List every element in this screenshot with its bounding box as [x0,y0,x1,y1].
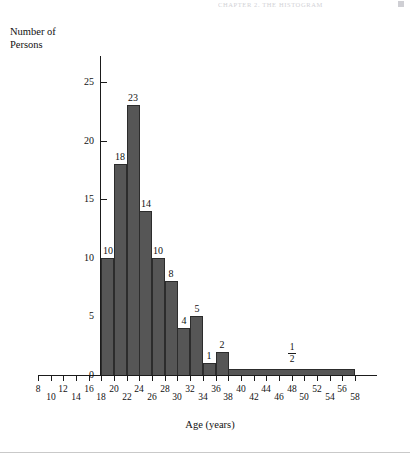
bar-value-label: 2 [207,340,237,350]
x-tick-mark [279,375,280,381]
x-tick-mark [38,375,39,381]
x-tick-mark [76,375,77,381]
histogram-bar [139,211,152,375]
x-tick-mark [190,375,191,381]
histogram-bar [177,328,190,375]
x-tick-mark [216,375,217,381]
x-tick-mark [304,375,305,381]
x-tick-mark [241,375,242,381]
x-tick-mark [114,375,115,381]
y-tick-label: 0 [68,370,94,380]
x-tick-mark [342,375,343,381]
x-tick-mark [254,375,255,381]
x-tick-mark [165,375,166,381]
bar-value-label: 14 [131,199,161,209]
x-tick-mark [177,375,178,381]
y-tick-mark [100,199,107,200]
x-tick-mark [101,375,102,381]
x-tick-mark [63,375,64,381]
y-tick-mark [100,141,107,142]
bar-value-label: 12 [277,343,307,364]
y-tick-label: 20 [68,136,94,146]
x-tick-mark [139,375,140,381]
x-tick-mark [228,375,229,381]
y-tick-label: 10 [68,253,94,263]
y-axis-title: Number of Persons [10,26,105,51]
histogram-bar [190,316,203,375]
fraction-denominator: 2 [277,355,307,364]
x-tick-mark [203,375,204,381]
fraction-numerator: 1 [277,343,307,352]
x-tick-mark [152,375,153,381]
histogram-bar [228,369,355,375]
x-tick-mark [51,375,52,381]
x-axis-title: Age (years) [120,419,300,430]
x-tick-label: 58 [345,392,365,402]
y-tick-label: 5 [68,311,94,321]
bar-value-label: 5 [182,304,212,314]
bar-value-label: 10 [143,246,173,256]
y-tick-label: 25 [68,77,94,87]
x-tick-mark [330,375,331,381]
histogram-bar [203,363,216,375]
histogram-bar [101,258,114,375]
histogram-bar [114,164,127,375]
x-tick-mark [266,375,267,381]
page-bottom-rule [0,452,410,453]
x-tick-mark [355,375,356,381]
bar-value-label: 8 [156,269,186,279]
histogram-figure: Number of Persons 0510152025 81012141618… [0,0,410,459]
x-tick-mark [127,375,128,381]
y-tick-mark [100,82,107,83]
x-tick-mark [317,375,318,381]
bar-value-label: 23 [118,93,148,103]
x-tick-mark [292,375,293,381]
y-tick-label: 15 [68,194,94,204]
x-tick-mark [89,375,90,381]
